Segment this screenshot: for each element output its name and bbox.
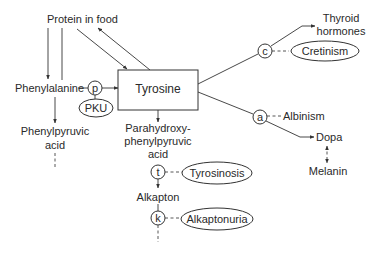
tyrosine-to-protein-arrow bbox=[98, 28, 150, 70]
enzyme-p-label: p bbox=[92, 82, 98, 94]
pku-label: PKU bbox=[85, 102, 108, 114]
alkapton-label: Alkapton bbox=[137, 191, 180, 203]
dopa-label: Dopa bbox=[316, 131, 343, 143]
enzyme-a-label: a bbox=[257, 111, 264, 123]
alkaptonuria-label: Alkaptonuria bbox=[186, 213, 248, 225]
thyroid-label-1: Thyroid bbox=[323, 12, 360, 24]
parahydroxy-label-1: Parahydroxy- bbox=[125, 122, 191, 134]
cretinism-label: Cretinism bbox=[302, 45, 348, 57]
enzyme-c-label: c bbox=[262, 45, 268, 57]
phenylpyruvic-label-2: acid bbox=[45, 139, 65, 151]
phenylpyruvic-label-1: Phenylpyruvic bbox=[21, 125, 90, 137]
parahydroxy-label-2: phenylpyruvic bbox=[124, 135, 192, 147]
tyrosinosis-label: Tyrosinosis bbox=[189, 167, 245, 179]
tyrosine-label: Tyrosine bbox=[135, 82, 181, 96]
protein-in-food-label: Protein in food bbox=[47, 13, 118, 25]
albinism-label: Albinism bbox=[283, 110, 325, 122]
protein-to-tyrosine-arrow bbox=[77, 29, 127, 69]
tyrosine-to-a-line bbox=[198, 92, 253, 114]
tyrosine-to-c-line bbox=[198, 54, 258, 84]
phenylalanine-label: Phenylalanine bbox=[15, 82, 84, 94]
parahydroxy-label-3: acid bbox=[148, 148, 168, 160]
thyroid-label-2: hormones bbox=[317, 25, 366, 37]
a-to-dopa-arrow bbox=[266, 121, 314, 137]
enzyme-k-label: k bbox=[155, 212, 161, 224]
enzyme-t-label: t bbox=[156, 166, 159, 178]
melanin-label: Melanin bbox=[309, 165, 348, 177]
tyrosine-metabolism-diagram: Protein in food Phenylalanine p PKU Phen… bbox=[0, 0, 380, 254]
